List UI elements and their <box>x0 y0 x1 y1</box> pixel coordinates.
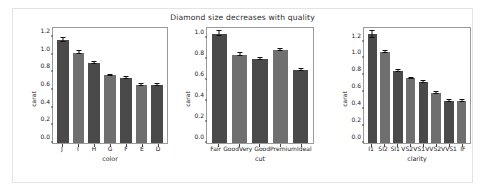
bar-f[interactable] <box>120 78 132 143</box>
ytick-label: 1.2 <box>351 31 361 38</box>
error-bar-cap-bottom <box>395 71 400 72</box>
error-bar-cap-top <box>278 48 283 49</box>
panel-cut-ylabel: carat <box>184 91 191 106</box>
ytick-mark <box>205 58 208 59</box>
ytick-label: 1.0 <box>194 28 204 35</box>
bar-good[interactable] <box>232 55 247 143</box>
ytick-label: 0.2 <box>40 115 50 122</box>
xtick-label-d: D <box>150 145 166 152</box>
bar-vvs1[interactable] <box>444 101 453 143</box>
error-bar-cap-bottom <box>60 41 65 42</box>
panel-color: carat 0.00.20.40.60.81.01.2 JIHGFED colo… <box>22 27 170 170</box>
ytick-label: 0.6 <box>194 70 204 77</box>
xtick-label-if: IF <box>457 145 469 152</box>
bar-si1[interactable] <box>393 71 402 143</box>
error-bar-cap-top <box>258 57 263 58</box>
panel-clarity: carat 0.00.20.40.60.81.01.2 I1SI2SI1VS2V… <box>333 27 473 170</box>
xtick-label-g: G <box>102 145 118 152</box>
error-bar-cap-bottom <box>155 85 160 86</box>
bar-slot <box>229 28 249 143</box>
xtick-label-f: F <box>118 145 134 152</box>
panel-color-ylabel: carat <box>30 91 37 106</box>
bar-ideal[interactable] <box>293 70 308 143</box>
panel-cut-bars <box>207 28 313 143</box>
ytick-mark <box>205 121 208 122</box>
bar-very-good[interactable] <box>252 59 267 143</box>
bar-slot <box>291 28 311 143</box>
ytick-mark <box>362 142 365 143</box>
xtick-label-ideal: Ideal <box>297 145 312 152</box>
ytick-mark <box>362 91 365 92</box>
error-bar-cap-top <box>60 37 65 38</box>
ytick-label: 0.2 <box>194 112 204 119</box>
ytick-label: 0.2 <box>351 116 361 123</box>
error-bar-cap-bottom <box>370 37 375 38</box>
bar-slot <box>209 28 229 143</box>
xtick-label-si2: SI2 <box>377 145 389 152</box>
ytick-label: 1.0 <box>40 44 50 51</box>
ytick-mark <box>205 79 208 80</box>
ytick-mark <box>362 57 365 58</box>
diamond-carat-figure: Diamond size decreases with quality cara… <box>0 0 485 191</box>
bar-slot <box>379 28 392 143</box>
bar-si2[interactable] <box>380 52 389 143</box>
panel-color-xlabel: color <box>52 155 168 162</box>
error-bar-cap-bottom <box>108 75 113 76</box>
ytick-label: 0.8 <box>40 62 50 69</box>
bar-h[interactable] <box>88 63 100 143</box>
bar-slot <box>71 28 87 143</box>
error-bar-cap-bottom <box>298 70 303 71</box>
error-bar-cap-bottom <box>446 101 451 102</box>
error-bar-cap-bottom <box>278 50 283 51</box>
panel-color-xticks: JIHGFED <box>52 145 168 152</box>
xtick-label-j: J <box>54 145 70 152</box>
ytick-mark <box>362 40 365 41</box>
panel-cut-xlabel: cut <box>206 155 314 162</box>
error-bar-cap-bottom <box>237 55 242 56</box>
bar-vvs2[interactable] <box>431 93 440 143</box>
ytick-label: 1.0 <box>351 48 361 55</box>
error-bar-cap-bottom <box>217 35 222 36</box>
ytick-mark <box>362 108 365 109</box>
bar-vs2[interactable] <box>406 78 415 143</box>
bar-premium[interactable] <box>273 50 288 143</box>
bar-j[interactable] <box>57 40 69 143</box>
bar-slot <box>430 28 443 143</box>
bar-i1[interactable] <box>368 34 377 143</box>
ytick-mark <box>51 53 54 54</box>
ytick-mark <box>51 124 54 125</box>
ytick-mark <box>51 88 54 89</box>
bar-vs1[interactable] <box>419 82 428 143</box>
bar-if[interactable] <box>457 101 466 143</box>
ytick-label: 0.4 <box>40 97 50 104</box>
error-bar-cap-top <box>76 50 81 51</box>
ytick-label: 0.4 <box>194 91 204 98</box>
ytick-label: 0.4 <box>351 99 361 106</box>
ytick-label: 0.6 <box>40 79 50 86</box>
xtick-label-vs1: VS1 <box>413 145 425 152</box>
error-bar-cap-top <box>459 99 464 100</box>
ytick-label: 0.0 <box>351 133 361 140</box>
error-bar-cap-bottom <box>408 78 413 79</box>
bar-i[interactable] <box>73 53 85 143</box>
error-bar-cap-top <box>92 61 97 62</box>
bar-slot <box>443 28 456 143</box>
ytick-label: 0.6 <box>351 82 361 89</box>
bar-slot <box>55 28 71 143</box>
bar-d[interactable] <box>151 85 163 143</box>
error-bar-cap-bottom <box>258 59 263 60</box>
error-bar-cap-top <box>370 30 375 31</box>
bar-e[interactable] <box>136 85 148 143</box>
error-bar-cap-bottom <box>92 63 97 64</box>
error-bar-cap-top <box>237 52 242 53</box>
panel-clarity-ylabel: carat <box>341 91 348 106</box>
bar-fair[interactable] <box>212 34 227 143</box>
bar-slot <box>417 28 430 143</box>
panel-color-plot-area: 0.00.20.40.60.81.01.2 <box>52 27 168 144</box>
ytick-mark <box>205 37 208 38</box>
error-bar-cap-top <box>395 69 400 70</box>
ytick-label: 1.2 <box>40 26 50 33</box>
xtick-label-very-good: Very Good <box>239 145 270 152</box>
bar-g[interactable] <box>104 75 116 143</box>
error-bar-cap-bottom <box>434 93 439 94</box>
